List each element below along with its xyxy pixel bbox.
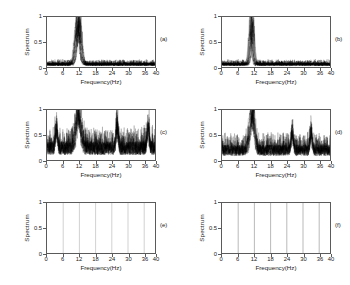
x-tick-label: 0 (39, 256, 53, 262)
x-tick-label: 0 (214, 256, 228, 262)
plot-area (46, 109, 156, 161)
x-tick-label: 12 (247, 256, 261, 262)
y-tick-label: 0.5 (20, 132, 42, 138)
x-axis-label: Frequency(Hz) (46, 171, 156, 178)
x-tick-label: 0 (214, 70, 228, 76)
plot-area (221, 202, 331, 254)
x-tick-label: 40 (324, 256, 338, 262)
x-tick-label: 18 (89, 163, 103, 169)
y-tick-label: 0.5 (20, 225, 42, 231)
x-tick-label: 30 (122, 70, 136, 76)
x-tick-label: 0 (214, 163, 228, 169)
x-tick-label: 6 (56, 163, 70, 169)
x-tick-label: 30 (297, 256, 311, 262)
x-tick-label: 40 (149, 70, 163, 76)
panel-letter-a: (a) (160, 36, 167, 42)
x-tick-label: 40 (324, 163, 338, 169)
panel-letter-c: (c) (160, 129, 167, 135)
y-tick-label: 1 (195, 199, 217, 205)
spectrum-panel-a: Spectrum10.5006121824303640Frequency(Hz)… (0, 0, 175, 95)
x-tick-label: 18 (264, 70, 278, 76)
y-tick-label: 0.5 (20, 39, 42, 45)
x-tick-label: 30 (122, 256, 136, 262)
x-tick-label: 12 (247, 163, 261, 169)
x-tick-label: 18 (89, 256, 103, 262)
y-tick-mark (218, 16, 221, 17)
panel-letter-f: (f) (335, 222, 341, 228)
x-tick-label: 24 (280, 163, 294, 169)
y-tick-mark (43, 135, 46, 136)
plot-area (46, 16, 156, 68)
x-tick-label: 0 (39, 70, 53, 76)
y-tick-label: 1 (20, 13, 42, 19)
plot-area (221, 109, 331, 161)
x-axis-label: Frequency(Hz) (46, 78, 156, 85)
x-tick-label: 12 (247, 70, 261, 76)
y-tick-label: 1 (195, 13, 217, 19)
y-tick-mark (43, 202, 46, 203)
y-tick-mark (218, 228, 221, 229)
x-tick-label: 40 (149, 256, 163, 262)
x-tick-label: 24 (105, 256, 119, 262)
x-axis-label: Frequency(Hz) (221, 171, 331, 178)
x-tick-label: 40 (324, 70, 338, 76)
x-tick-label: 24 (280, 256, 294, 262)
spectrum-panel-e: Spectrum10.5006121824303640Frequency(Hz)… (0, 186, 175, 281)
spectrum-panel-b: Spectrum10.5006121824303640Frequency(Hz)… (175, 0, 350, 95)
spectrum-figure: Spectrum10.5006121824303640Frequency(Hz)… (0, 0, 350, 285)
plot-area (46, 202, 156, 254)
panel-letter-d: (d) (335, 129, 342, 135)
x-tick-label: 6 (56, 256, 70, 262)
x-axis-label: Frequency(Hz) (221, 264, 331, 271)
y-tick-label: 0.5 (195, 132, 217, 138)
x-tick-label: 30 (122, 163, 136, 169)
x-tick-label: 30 (297, 70, 311, 76)
x-tick-label: 24 (105, 163, 119, 169)
x-tick-label: 12 (72, 256, 86, 262)
x-tick-label: 40 (149, 163, 163, 169)
x-tick-label: 12 (72, 70, 86, 76)
x-tick-label: 12 (72, 163, 86, 169)
x-tick-label: 6 (231, 70, 245, 76)
x-tick-label: 0 (39, 163, 53, 169)
y-tick-mark (218, 109, 221, 110)
y-tick-label: 1 (20, 199, 42, 205)
y-tick-label: 1 (20, 106, 42, 112)
plot-area (221, 16, 331, 68)
panel-letter-e: (e) (160, 222, 167, 228)
x-tick-label: 6 (231, 256, 245, 262)
x-tick-label: 30 (297, 163, 311, 169)
x-tick-label: 24 (105, 70, 119, 76)
y-tick-mark (43, 16, 46, 17)
y-tick-label: 1 (195, 106, 217, 112)
y-tick-mark (218, 42, 221, 43)
y-tick-label: 0.5 (195, 39, 217, 45)
x-axis-label: Frequency(Hz) (46, 264, 156, 271)
x-tick-label: 18 (89, 70, 103, 76)
x-tick-label: 6 (56, 70, 70, 76)
y-tick-mark (218, 135, 221, 136)
y-tick-mark (43, 109, 46, 110)
y-tick-mark (43, 42, 46, 43)
spectrum-panel-c: Spectrum10.5006121824303640Frequency(Hz)… (0, 93, 175, 188)
spectrum-panel-f: Spectrum10.5006121824303640Frequency(Hz)… (175, 186, 350, 281)
x-tick-label: 24 (280, 70, 294, 76)
x-tick-label: 18 (264, 256, 278, 262)
y-tick-mark (43, 228, 46, 229)
x-tick-label: 6 (231, 163, 245, 169)
panel-letter-b: (b) (335, 36, 342, 42)
spectrum-panel-d: Spectrum10.5006121824303640Frequency(Hz)… (175, 93, 350, 188)
x-tick-label: 18 (264, 163, 278, 169)
y-tick-label: 0.5 (195, 225, 217, 231)
x-axis-label: Frequency(Hz) (221, 78, 331, 85)
y-tick-mark (218, 202, 221, 203)
